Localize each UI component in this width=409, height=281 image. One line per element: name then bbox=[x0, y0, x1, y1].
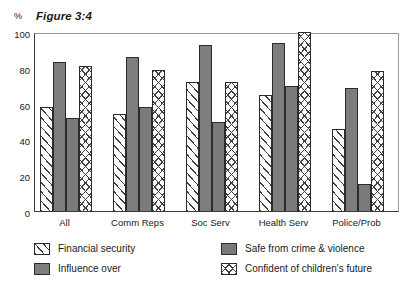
bar bbox=[199, 45, 212, 211]
bar-group bbox=[181, 34, 254, 211]
x-axis-category-label: Comm Reps bbox=[111, 217, 164, 228]
legend-label: Safe from crime & violence bbox=[245, 243, 365, 254]
legend-label: Financial security bbox=[58, 243, 135, 254]
bar bbox=[152, 70, 165, 211]
y-axis-tick-label: 100 bbox=[4, 29, 30, 40]
x-axis-category-label: Police/Prob bbox=[332, 217, 381, 228]
x-axis-category-label: Health Serv bbox=[259, 217, 309, 228]
bar bbox=[272, 43, 285, 211]
legend-swatch bbox=[34, 263, 50, 275]
legend-item: Influence over bbox=[34, 261, 121, 276]
figure-title: Figure 3:4 bbox=[36, 10, 92, 22]
legend-swatch bbox=[221, 243, 237, 255]
bar bbox=[126, 57, 139, 211]
legend-item: Safe from crime & violence bbox=[221, 241, 365, 256]
y-axis-tick-label: 20 bbox=[4, 172, 30, 183]
bar bbox=[66, 118, 79, 211]
bar bbox=[225, 82, 238, 211]
legend-label: Influence over bbox=[58, 263, 121, 274]
legend-swatch bbox=[221, 263, 237, 275]
bar bbox=[139, 107, 152, 211]
bar bbox=[40, 107, 53, 211]
bar bbox=[53, 62, 66, 211]
bar bbox=[358, 184, 371, 211]
bar-group bbox=[108, 34, 181, 211]
bar-group bbox=[327, 34, 400, 211]
figure-container: % Figure 3:4 020406080100 AllComm RepsSo… bbox=[0, 0, 409, 281]
y-axis-tick-label: 40 bbox=[4, 136, 30, 147]
bar-group bbox=[254, 34, 327, 211]
y-axis-tick-label: 80 bbox=[4, 64, 30, 75]
x-axis-category-labels: AllComm RepsSoc ServHealth ServPolice/Pr… bbox=[34, 217, 399, 233]
bar bbox=[113, 114, 126, 211]
y-axis-tick-label: 0 bbox=[4, 208, 30, 219]
bar bbox=[212, 122, 225, 212]
bar bbox=[332, 129, 345, 211]
bar bbox=[298, 32, 311, 211]
bar bbox=[79, 66, 92, 211]
legend-swatch bbox=[34, 243, 50, 255]
bars-layer bbox=[35, 34, 398, 211]
chart-legend: Financial securityInfluence overSafe fro… bbox=[34, 241, 406, 279]
legend-item: Confident of children's future bbox=[221, 261, 372, 276]
y-axis-tick-label: 60 bbox=[4, 100, 30, 111]
bar bbox=[371, 71, 384, 211]
y-axis-unit-label: % bbox=[14, 11, 22, 21]
bar bbox=[259, 95, 272, 211]
x-axis-category-label: All bbox=[59, 217, 70, 228]
bar bbox=[285, 86, 298, 211]
legend-item: Financial security bbox=[34, 241, 135, 256]
bar bbox=[186, 82, 199, 211]
legend-label: Confident of children's future bbox=[245, 263, 372, 274]
plot-area: 020406080100 bbox=[34, 33, 399, 212]
bar bbox=[345, 88, 358, 212]
x-axis-category-label: Soc Serv bbox=[191, 217, 230, 228]
bar-group bbox=[35, 34, 108, 211]
